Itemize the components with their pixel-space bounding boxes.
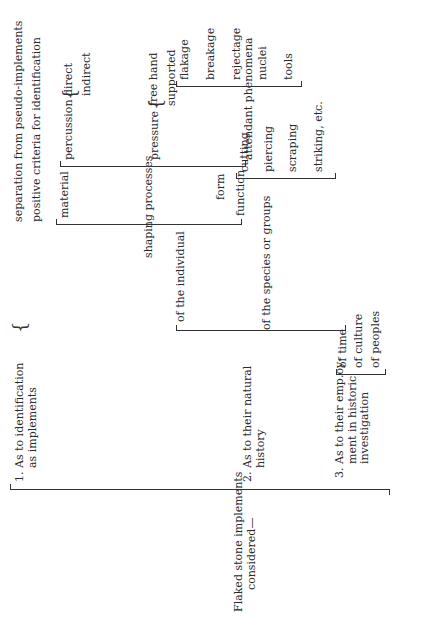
branch1-label: 1. As to identification as implements bbox=[14, 363, 39, 482]
branch1-child-separation: separation from pseudo-implements bbox=[12, 21, 25, 222]
branch3-brace-tick-top bbox=[336, 369, 337, 375]
branch3-brace-line bbox=[336, 374, 386, 375]
scraping: scraping bbox=[286, 124, 299, 172]
percussion: percussion bbox=[62, 99, 75, 160]
of-peoples: of peoples bbox=[369, 311, 382, 368]
root-brace-tick-top bbox=[10, 484, 11, 490]
branch2-brace-line bbox=[176, 330, 346, 331]
root-brace-tick-bottom bbox=[389, 489, 390, 495]
of-the-individual: of the individual bbox=[174, 231, 187, 322]
branch2-label-line1: 2. As to their natural bbox=[242, 366, 255, 482]
function-brace-line bbox=[236, 178, 336, 179]
attendant-brace-tick-top bbox=[176, 81, 177, 87]
branch1-child-positive-criteria: positive criteria for identification bbox=[30, 37, 43, 222]
indirect: indirect bbox=[80, 52, 93, 96]
flakage: flakage bbox=[178, 39, 191, 80]
attendant-brace-tick-bottom bbox=[301, 81, 302, 87]
function-brace-tick-top bbox=[236, 173, 237, 179]
shaping-brace-tick-top bbox=[60, 161, 61, 167]
direct: direct bbox=[62, 63, 75, 96]
pressure: pressure bbox=[148, 111, 161, 160]
shaping-processes: shaping processes bbox=[142, 155, 155, 258]
rejectage: rejectage bbox=[230, 28, 243, 80]
individual-brace-tick-bottom bbox=[241, 219, 242, 225]
branch2-label: 2. As to their natural history bbox=[242, 366, 267, 482]
of-the-species-or-groups: of the species or groups bbox=[260, 196, 273, 330]
striking-etc: striking, etc. bbox=[312, 101, 325, 172]
root-label: Flaked stone implements considered— bbox=[232, 472, 258, 612]
cutting: cutting bbox=[238, 132, 251, 172]
tools: tools bbox=[282, 53, 295, 80]
branch1-brace: { bbox=[11, 322, 29, 333]
branch3-label-line3: investigation bbox=[359, 358, 372, 478]
branch2-brace-tick-top bbox=[176, 325, 177, 331]
free-hand: free hand bbox=[147, 52, 160, 106]
material: material bbox=[58, 171, 71, 218]
of-culture: of culture bbox=[352, 314, 365, 368]
branch1-label-line2: as implements bbox=[27, 363, 40, 482]
individual-brace-tick-top bbox=[56, 219, 57, 225]
breakage: breakage bbox=[204, 28, 217, 80]
piercing: piercing bbox=[262, 126, 275, 172]
branch3-label: 3. As to their emp.oy- ment in historic … bbox=[334, 358, 372, 478]
form: form bbox=[214, 174, 227, 200]
nuclei: nuclei bbox=[256, 46, 269, 80]
shaping-brace-line bbox=[60, 166, 246, 167]
branch2-label-line2: history bbox=[255, 366, 268, 482]
attendant-brace-line bbox=[176, 86, 302, 87]
branch3-brace-tick-bottom bbox=[385, 369, 386, 375]
branch3-label-line1: 3. As to their emp.oy- bbox=[334, 358, 347, 478]
root-label-line1: Flaked stone implements bbox=[232, 472, 245, 612]
function-brace-tick-bottom bbox=[335, 173, 336, 179]
of-time: of time bbox=[336, 329, 349, 368]
branch1-label-line1: 1. As to identification bbox=[14, 363, 27, 482]
root-brace-line bbox=[10, 489, 390, 490]
supported: supported bbox=[165, 49, 178, 106]
root-label-line2: considered— bbox=[245, 472, 258, 612]
